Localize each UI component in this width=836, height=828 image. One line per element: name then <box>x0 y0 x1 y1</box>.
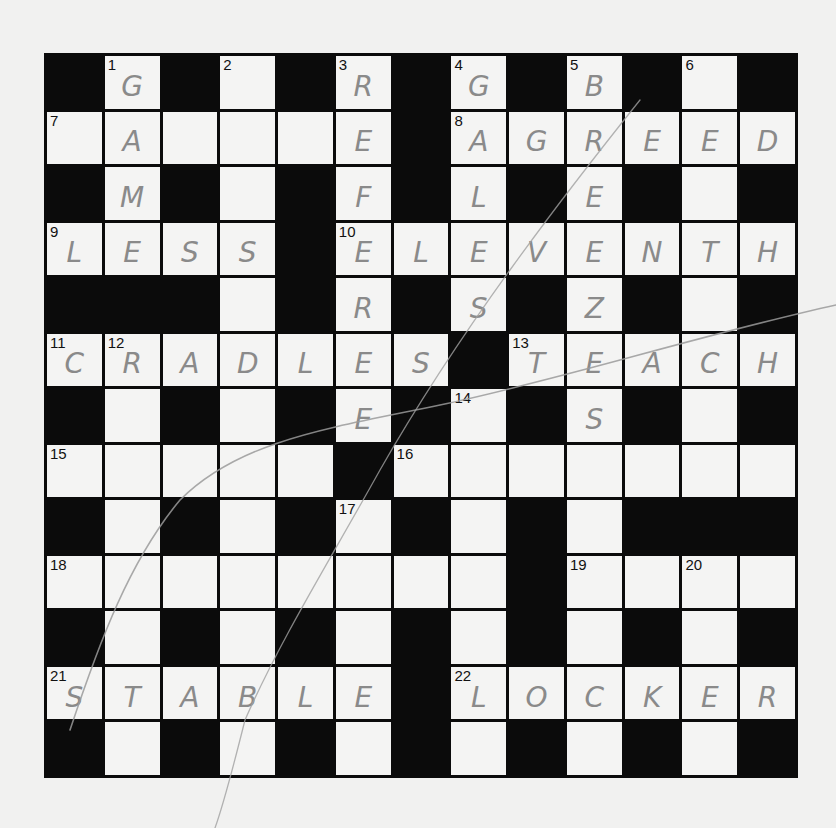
grid-cell[interactable]: E <box>682 112 737 165</box>
grid-cell[interactable]: M <box>105 167 160 220</box>
grid-cell[interactable] <box>567 445 622 498</box>
grid-cell[interactable]: K <box>625 667 680 720</box>
grid-cell[interactable]: 5B <box>567 56 622 109</box>
grid-cell[interactable] <box>220 112 275 165</box>
grid-cell[interactable]: E <box>625 112 680 165</box>
grid-cell[interactable]: G <box>509 112 564 165</box>
grid-cell[interactable]: A <box>163 667 218 720</box>
grid-cell[interactable]: 10E <box>336 223 391 276</box>
grid-cell[interactable]: 20 <box>682 556 737 609</box>
grid-cell[interactable]: A <box>163 334 218 387</box>
grid-cell[interactable] <box>336 722 391 775</box>
grid-cell[interactable]: 1G <box>105 56 160 109</box>
grid-cell[interactable]: 4G <box>451 56 506 109</box>
grid-cell[interactable]: E <box>567 334 622 387</box>
grid-cell[interactable] <box>220 167 275 220</box>
grid-cell[interactable] <box>105 389 160 442</box>
grid-cell[interactable]: 19 <box>567 556 622 609</box>
grid-cell[interactable] <box>625 556 680 609</box>
grid-cell[interactable] <box>682 611 737 664</box>
grid-cell[interactable]: A <box>105 112 160 165</box>
grid-cell[interactable]: L <box>278 334 333 387</box>
grid-cell[interactable] <box>278 556 333 609</box>
grid-cell[interactable]: D <box>220 334 275 387</box>
grid-cell[interactable] <box>682 445 737 498</box>
grid-cell[interactable] <box>451 556 506 609</box>
grid-cell[interactable]: B <box>220 667 275 720</box>
grid-cell[interactable]: Z <box>567 278 622 331</box>
grid-cell[interactable]: E <box>336 334 391 387</box>
grid-cell[interactable]: T <box>105 667 160 720</box>
grid-cell[interactable]: E <box>105 223 160 276</box>
grid-cell[interactable]: 21S <box>47 667 102 720</box>
grid-cell[interactable]: S <box>220 223 275 276</box>
grid-cell[interactable]: S <box>394 334 449 387</box>
grid-cell[interactable]: R <box>740 667 795 720</box>
grid-cell[interactable] <box>278 445 333 498</box>
grid-cell[interactable]: 18 <box>47 556 102 609</box>
grid-cell[interactable]: E <box>336 667 391 720</box>
grid-cell[interactable]: V <box>509 223 564 276</box>
grid-cell[interactable] <box>105 722 160 775</box>
grid-cell[interactable]: 9L <box>47 223 102 276</box>
grid-cell[interactable]: C <box>567 667 622 720</box>
grid-cell[interactable] <box>682 167 737 220</box>
grid-cell[interactable]: E <box>336 389 391 442</box>
grid-cell[interactable]: E <box>682 667 737 720</box>
grid-cell[interactable] <box>567 500 622 553</box>
grid-cell[interactable] <box>220 611 275 664</box>
grid-cell[interactable]: E <box>567 223 622 276</box>
grid-cell[interactable] <box>451 722 506 775</box>
grid-cell[interactable]: N <box>625 223 680 276</box>
grid-cell[interactable] <box>220 500 275 553</box>
grid-cell[interactable] <box>740 445 795 498</box>
grid-cell[interactable] <box>567 722 622 775</box>
grid-cell[interactable] <box>336 611 391 664</box>
grid-cell[interactable] <box>567 611 622 664</box>
grid-cell[interactable] <box>336 556 391 609</box>
grid-cell[interactable]: 14 <box>451 389 506 442</box>
grid-cell[interactable] <box>163 556 218 609</box>
grid-cell[interactable] <box>220 389 275 442</box>
grid-cell[interactable]: S <box>163 223 218 276</box>
grid-cell[interactable]: L <box>278 667 333 720</box>
grid-cell[interactable]: S <box>567 389 622 442</box>
grid-cell[interactable] <box>278 112 333 165</box>
grid-cell[interactable]: 12R <box>105 334 160 387</box>
grid-cell[interactable] <box>394 556 449 609</box>
grid-cell[interactable]: R <box>336 278 391 331</box>
grid-cell[interactable]: 11C <box>47 334 102 387</box>
grid-cell[interactable] <box>105 611 160 664</box>
grid-cell[interactable] <box>220 556 275 609</box>
grid-cell[interactable]: 16 <box>394 445 449 498</box>
grid-cell[interactable] <box>451 445 506 498</box>
grid-cell[interactable]: H <box>740 223 795 276</box>
grid-cell[interactable]: O <box>509 667 564 720</box>
grid-cell[interactable]: A <box>625 334 680 387</box>
grid-cell[interactable] <box>105 556 160 609</box>
grid-cell[interactable]: S <box>451 278 506 331</box>
grid-cell[interactable]: 17 <box>336 500 391 553</box>
grid-cell[interactable] <box>682 278 737 331</box>
grid-cell[interactable]: 3R <box>336 56 391 109</box>
grid-cell[interactable] <box>105 445 160 498</box>
grid-cell[interactable] <box>220 445 275 498</box>
grid-cell[interactable]: D <box>740 112 795 165</box>
grid-cell[interactable]: E <box>336 112 391 165</box>
grid-cell[interactable] <box>509 445 564 498</box>
grid-cell[interactable]: C <box>682 334 737 387</box>
grid-cell[interactable] <box>163 112 218 165</box>
grid-cell[interactable] <box>220 722 275 775</box>
grid-cell[interactable] <box>740 556 795 609</box>
grid-cell[interactable] <box>682 389 737 442</box>
grid-cell[interactable]: 2 <box>220 56 275 109</box>
grid-cell[interactable] <box>105 500 160 553</box>
grid-cell[interactable]: 8A <box>451 112 506 165</box>
grid-cell[interactable]: 15 <box>47 445 102 498</box>
grid-cell[interactable]: 7 <box>47 112 102 165</box>
grid-cell[interactable] <box>451 500 506 553</box>
grid-cell[interactable]: L <box>394 223 449 276</box>
grid-cell[interactable]: 6 <box>682 56 737 109</box>
grid-cell[interactable]: T <box>682 223 737 276</box>
grid-cell[interactable] <box>625 445 680 498</box>
